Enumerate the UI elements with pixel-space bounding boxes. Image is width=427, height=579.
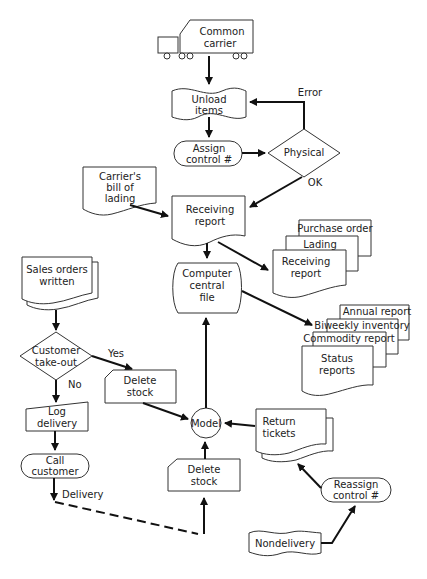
svg-text:Assign: Assign — [193, 143, 226, 154]
svg-text:tickets: tickets — [263, 428, 296, 439]
svg-text:items: items — [195, 105, 223, 116]
svg-text:report: report — [291, 268, 322, 279]
svg-text:Model: Model — [191, 418, 221, 429]
model-node: Model — [191, 408, 221, 438]
report-annual: Annual report — [343, 306, 412, 317]
nondelivery-node: Nondelivery — [249, 531, 321, 556]
receiving-report-node: Receiving report — [172, 196, 245, 246]
svg-text:Sales orders: Sales orders — [26, 264, 88, 275]
svg-text:Log: Log — [48, 406, 66, 417]
svg-text:Return: Return — [262, 416, 295, 427]
edge-label-yes: Yes — [107, 348, 124, 359]
edge-physical-ok — [250, 177, 302, 207]
svg-text:file: file — [199, 292, 214, 303]
doc-purchase-order: Purchase order — [297, 223, 373, 234]
svg-text:control #: control # — [333, 490, 379, 501]
assign-control-node: Assign control # — [174, 141, 242, 166]
svg-text:Receiving: Receiving — [186, 204, 234, 215]
edge-delivery-dashed — [55, 502, 198, 534]
computer-central-file-node: Computer central file — [173, 263, 242, 313]
report-biweekly-inventory: Biweekly inventory — [314, 320, 409, 331]
svg-text:Delete: Delete — [124, 375, 157, 386]
document-stack: Purchase order Lading Receiving report — [273, 220, 374, 297]
svg-text:stock: stock — [127, 387, 154, 398]
svg-text:reports: reports — [319, 365, 355, 376]
edge-delete-upper-to-model — [143, 403, 188, 419]
delete-stock-upper-node: Delete stock — [105, 370, 176, 403]
svg-text:Physical: Physical — [284, 147, 325, 158]
svg-text:stock: stock — [191, 476, 218, 487]
edge-label-delivery: Delivery — [62, 489, 104, 500]
flowchart-canvas: Common carrier Unload items Assign contr… — [0, 0, 427, 579]
svg-text:Carrier's: Carrier's — [99, 171, 141, 182]
call-customer-node: Call customer — [21, 454, 89, 478]
unload-items-node: Unload items — [172, 88, 246, 120]
svg-text:take-out: take-out — [35, 357, 77, 368]
report-commodity: Commodity report — [303, 333, 394, 344]
svg-text:Delete: Delete — [188, 464, 221, 475]
report-status: Status — [321, 353, 353, 364]
physical-decision-node: Physical — [268, 129, 340, 177]
common-carrier-label: Common — [199, 26, 244, 37]
svg-text:report: report — [195, 216, 226, 227]
svg-text:Call: Call — [46, 455, 65, 466]
edge-bill-to-receiving — [130, 205, 168, 216]
svg-text:Unload: Unload — [191, 94, 226, 105]
svg-text:Reassign: Reassign — [334, 479, 379, 490]
svg-text:central: central — [190, 280, 225, 291]
svg-text:Customer: Customer — [32, 345, 81, 356]
edge-label-no: No — [68, 379, 82, 390]
edge-nondelivery-to-reassign — [321, 506, 355, 543]
svg-text:lading: lading — [105, 193, 136, 204]
svg-text:written: written — [39, 276, 74, 287]
svg-text:control #: control # — [186, 154, 232, 165]
svg-text:delivery: delivery — [37, 418, 77, 429]
edge-tickets-to-model — [225, 423, 255, 426]
return-tickets-node: Return tickets — [256, 409, 333, 462]
reassign-control-node: Reassign control # — [321, 478, 391, 502]
edge-reassign-to-tickets — [298, 464, 321, 488]
svg-text:carrier: carrier — [204, 38, 238, 49]
doc-receiving-report: Receiving — [282, 256, 330, 267]
common-carrier-truck-icon: Common carrier — [158, 20, 253, 59]
edge-physical-error — [250, 102, 304, 129]
svg-text:customer: customer — [31, 466, 79, 477]
reports-stack: Annual report Biweekly inventory Commodi… — [302, 305, 411, 395]
svg-text:Computer: Computer — [182, 268, 233, 279]
edge-label-ok: OK — [308, 177, 323, 188]
sales-orders-written-node: Sales orders written — [22, 257, 98, 310]
carriers-bill-of-lading-node: Carrier's bill of lading — [83, 167, 156, 215]
svg-text:bill of: bill of — [106, 182, 134, 193]
svg-text:Nondelivery: Nondelivery — [255, 538, 315, 549]
log-delivery-node: Log delivery — [26, 402, 88, 431]
delete-stock-lower-node: Delete stock — [168, 459, 240, 491]
edge-label-error: Error — [298, 87, 323, 98]
doc-lading: Lading — [303, 239, 337, 250]
customer-takeout-decision-node: Customer take-out — [20, 332, 92, 380]
